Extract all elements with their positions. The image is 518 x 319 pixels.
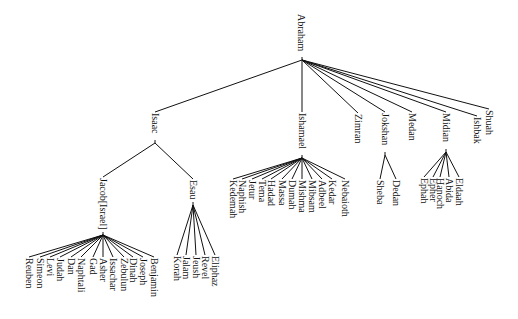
edge-esau-korah [177,205,193,255]
edge-isaac-jacob [103,143,155,177]
node-hadad: Hadad [266,180,276,206]
edge-abraham-isaac [155,60,302,112]
edge-esau-eliphaz [193,205,215,255]
node-isaac: Isaac [150,113,160,134]
node-benjamin: Benjamin [149,258,159,297]
edge-jokshan-dedan [385,155,396,179]
node-levi: Levi [45,258,55,276]
node-kedar: Kedar [327,180,337,204]
node-mishma: Mishma [297,180,307,213]
node-dinah: Dinah [128,258,138,282]
node-esau: Esau [188,180,198,199]
node-jetur: Jetur [247,180,257,199]
edge-ishamael-adbeel [302,158,322,179]
node-massa: Massa [277,180,287,206]
edge-ishamael-jetur [252,158,302,179]
edge-abraham-shuah [302,60,489,109]
node-jalam: Jalam [181,256,191,279]
node-zimran: Zimran [353,114,363,143]
node-midian: Midian [441,113,451,142]
node-shuah: Shuah [484,110,494,135]
family-tree-diagram: AbrahamIsaacIshamaelZimranJokshanMedanMi… [0,0,518,319]
edge-jacob-zebulun [103,235,124,257]
node-eldaah: Eldaah [454,178,464,206]
node-sheba: Sheba [375,180,385,204]
edge-jokshan-sheba [380,155,385,179]
node-abida: Abida [444,178,454,202]
node-judah: Judah [55,258,65,281]
edge-jacob-simeon [40,235,103,257]
node-nebaioth: Nebaioth [340,180,350,217]
node-dedan: Dedan [391,180,401,206]
node-reuben: Reuben [24,258,34,289]
node-eliphaz: Eliphaz [210,256,220,287]
node-jokshan: Jokshan [380,113,390,145]
node-issachar: Issachar [108,258,118,291]
edge-jacob-joseph [103,235,143,257]
node-jacob: Jacob[Israel] [98,178,108,230]
node-naphish: Naphish [237,180,247,213]
edge-abraham-ishbak [302,60,477,116]
node-asher: Asher [98,258,108,282]
node-naphtali: Naphtali [76,258,86,292]
edge-abraham-zimran [302,60,358,113]
edge-abraham-midian [302,60,446,112]
node-dan: Dan [66,258,76,275]
node-joseph: Joseph [138,258,148,285]
node-adbeel: Adbeel [317,180,327,209]
node-ishamael: Ishamael [297,113,307,149]
node-simeon: Simeon [35,258,45,289]
node-mibsam: Mibsam [307,180,317,213]
edge-abraham-medan [302,60,412,112]
node-medan: Medan [407,113,417,141]
node-abraham: Abraham [296,14,306,51]
edge-isaac-esau [155,143,193,179]
edge-ishamael-nebaioth [302,158,345,179]
node-dumah: Dumah [287,180,297,209]
node-revel: Revel [200,256,210,279]
node-gad: Gad [88,258,98,275]
node-ishbak: Ishbak [472,117,482,144]
edge-esau-jalam [186,205,193,255]
